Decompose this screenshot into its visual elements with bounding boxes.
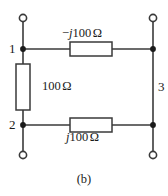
node-label-1: 1 xyxy=(9,42,16,55)
junction-dot-node-2 xyxy=(20,122,26,128)
impedance-bottom-label: j100Ω xyxy=(66,131,99,144)
impedance-top-label: −j100Ω xyxy=(62,27,102,40)
junction-dot-bottom-right xyxy=(150,122,156,128)
resistor-left-magnitude: 100 xyxy=(42,79,61,93)
terminal-bottom-right-icon xyxy=(149,151,156,158)
node-label-2: 2 xyxy=(9,118,16,131)
impedance-top-sign: − xyxy=(62,26,69,40)
terminal-top-right-icon xyxy=(149,14,156,21)
terminal-top-left-icon xyxy=(19,14,26,21)
node-label-3: 3 xyxy=(158,80,165,93)
figure-caption: (b) xyxy=(0,172,168,187)
circuit-figure: 1 2 3 −j100Ω 100Ω j100Ω (b) xyxy=(0,0,168,196)
resistor-left-unit: Ω xyxy=(61,79,72,93)
impedance-top-unit: Ω xyxy=(91,26,102,40)
resistor-left-box xyxy=(16,64,30,110)
impedance-top-magnitude: 100 xyxy=(73,26,92,40)
junction-dot-node-1 xyxy=(20,46,26,52)
impedance-bottom-magnitude: 100 xyxy=(69,130,88,144)
terminal-bottom-left-icon xyxy=(19,151,26,158)
junction-dot-top-right xyxy=(150,46,156,52)
impedance-bottom-unit: Ω xyxy=(88,130,99,144)
impedance-top-box xyxy=(70,42,112,56)
resistor-left-label: 100Ω xyxy=(42,80,72,93)
